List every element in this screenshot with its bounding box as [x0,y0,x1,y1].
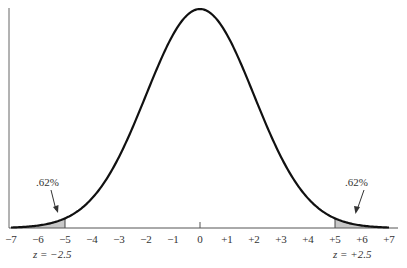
left-tail-percent-label: .62% [36,176,59,188]
x-tick-label: +4 [302,233,314,245]
normal-curve [11,9,389,228]
x-tick-label: +5 [329,233,341,245]
x-tick-labels: −7−6−5−4−3−2−10+1+2+3+4+5+6+7 [5,233,395,245]
x-tick-label: +3 [275,233,287,245]
x-tick-label: −4 [86,233,98,245]
right-arrow-head [354,206,360,214]
x-tick-label: −5 [59,233,71,245]
x-tick-label: +2 [248,233,260,245]
x-tick-label: +1 [221,233,233,245]
x-tick-label: −1 [167,233,179,245]
x-tick-label: +6 [356,233,368,245]
x-tick-label: +7 [383,233,395,245]
x-tick-label: 0 [197,233,203,245]
normal-distribution-chart: −7−6−5−4−3−2−10+1+2+3+4+5+6+7 .62% .62% … [0,0,407,268]
x-tick-label: −6 [32,233,44,245]
x-tick-label: −2 [140,233,152,245]
x-tick-label: −3 [113,233,125,245]
x-tick-label: −7 [5,233,17,245]
right-tail-percent-label: .62% [345,176,368,188]
left-z-label: z = −2.5 [32,248,72,260]
right-z-label: z = +2.5 [332,248,372,260]
left-arrow-head [53,205,59,213]
